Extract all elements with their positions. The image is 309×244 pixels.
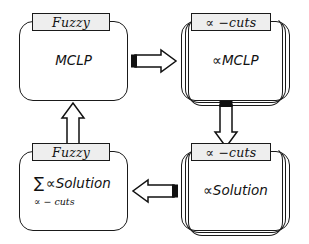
node-fuzzy-mclp-body: MCLP: [20, 22, 127, 100]
node-alpha-solution: ∝Solution: [181, 151, 290, 231]
node-alpha-solution-body: ∝Solution: [182, 152, 289, 230]
node-alpha-mclp-body: ∝MCLP: [182, 22, 289, 100]
node-alpha-solution-text: ∝Solution: [203, 183, 268, 199]
node-fuzzy-mclp: MCLP: [19, 21, 128, 101]
plate-fuzzy-mclp: Fuzzy: [32, 13, 110, 31]
arrow-left-up-direction: [60, 101, 86, 149]
plate-fuzzy-mclp-label: Fuzzy: [52, 15, 90, 30]
flow-diagram: MCLP Fuzzy ∝MCLP ∝ −cuts ∑∝Solution ∝ − …: [0, 0, 309, 244]
node-fuzzy-solution-text: ∑∝Solution: [34, 175, 111, 192]
node-fuzzy-solution-main: ∝Solution: [46, 175, 111, 191]
plate-alpha-mclp: ∝ −cuts: [191, 13, 271, 31]
plate-alpha-solution: ∝ −cuts: [191, 143, 271, 161]
plate-alpha-solution-label: ∝ −cuts: [206, 145, 257, 160]
node-fuzzy-solution-subtext: ∝ − cuts: [34, 196, 75, 207]
summation-symbol: ∑: [34, 174, 46, 192]
arrow-top-right-direction: [131, 48, 178, 74]
node-fuzzy-solution: ∑∝Solution ∝ − cuts: [19, 151, 128, 231]
arrow-bottom-left-direction: [131, 178, 178, 204]
plate-fuzzy-solution-label: Fuzzy: [52, 145, 90, 160]
node-fuzzy-mclp-text: MCLP: [55, 53, 92, 69]
arrow-right-down-direction: [213, 101, 239, 149]
node-fuzzy-solution-body: ∑∝Solution ∝ − cuts: [20, 152, 127, 230]
node-alpha-mclp: ∝MCLP: [181, 21, 290, 101]
plate-alpha-mclp-label: ∝ −cuts: [206, 15, 257, 30]
node-alpha-mclp-text: ∝MCLP: [212, 53, 258, 69]
plate-fuzzy-solution: Fuzzy: [32, 143, 110, 161]
